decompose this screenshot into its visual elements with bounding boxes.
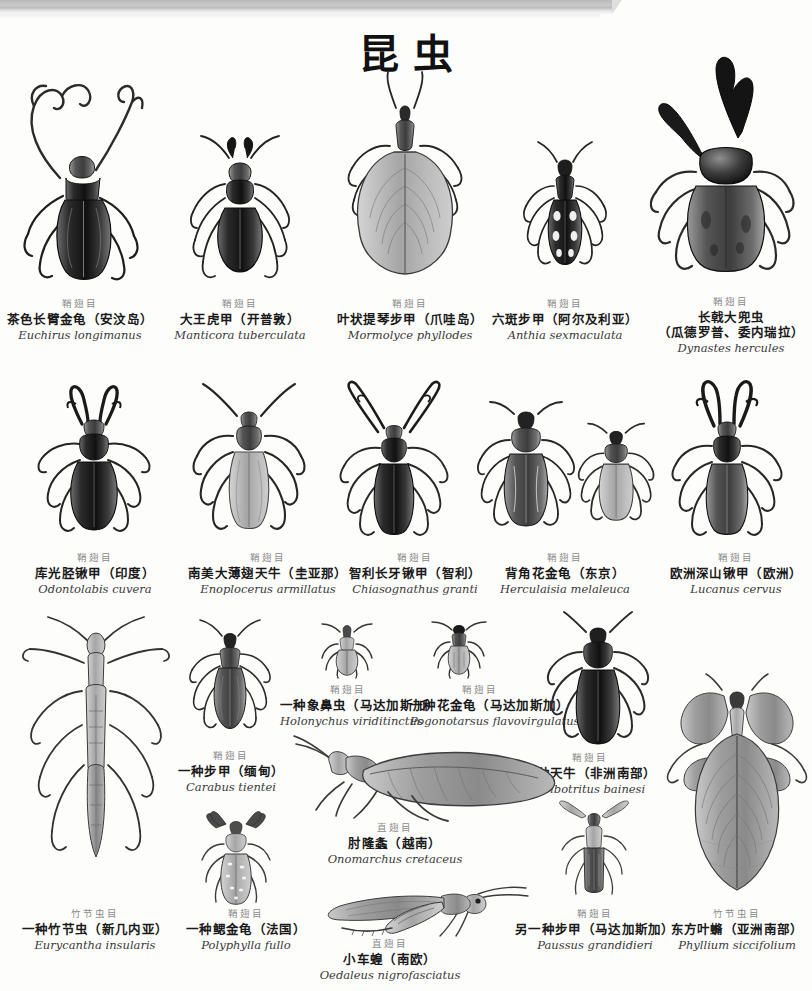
latin-name: Phyllium siccifolium bbox=[662, 938, 812, 952]
latin-name: Eurycantha insularis bbox=[0, 938, 190, 952]
scan-edge-shadow bbox=[0, 14, 600, 19]
specimen-dynastes-hercules bbox=[630, 52, 805, 282]
latin-name: Herculaisia melaleuca bbox=[470, 582, 660, 596]
caption-onomarchus-cretaceus: 直翅目 肘隆螽（越南） Onomarchus cretaceus bbox=[280, 822, 510, 866]
common-name: 大王虎甲（开普敦） bbox=[160, 312, 320, 327]
caption-paussus-grandidieri: 鞘翅目 另一种步甲（马达加斯加） Paussus grandidieri bbox=[510, 908, 680, 952]
common-name: 一种鳃金龟（法国） bbox=[176, 922, 316, 937]
common-name-region: （瓜德罗普、委内瑞拉） bbox=[650, 325, 812, 340]
caption-pogonotarsus-flavovirgulatus: 鞘翅目 一种花金龟（马达加斯加） Pogonotarsus flavovirgu… bbox=[410, 684, 550, 728]
common-name: 一种象鼻虫（马达加斯加） bbox=[280, 698, 415, 713]
specimen-pogonotarsus-flavovirgulatus bbox=[428, 618, 490, 680]
caption-anthia-sexmaculata: 鞘翅目 六斑步甲（阿尔及利亚） Anthia sexmaculata bbox=[485, 298, 645, 342]
common-name: 茶色长臂金龟（安汶岛） bbox=[0, 312, 160, 327]
specimen-manticora-tuberculata bbox=[185, 128, 295, 296]
order-label: 直翅目 bbox=[280, 822, 510, 834]
specimen-euchirus-longimanus bbox=[8, 58, 158, 293]
specimen-anthia-sexmaculata bbox=[510, 140, 620, 290]
order-label: 鞘翅目 bbox=[660, 552, 812, 564]
caption-euchirus-longimanus: 鞘翅目 茶色长臂金龟（安汶岛） Euchirus longimanus bbox=[0, 298, 160, 342]
order-label: 鞘翅目 bbox=[0, 298, 160, 310]
common-name: 东方叶䗛（亚洲南部） bbox=[662, 922, 812, 937]
order-label: 鞘翅目 bbox=[320, 298, 500, 310]
common-name: 小车蝗（南欧） bbox=[290, 952, 490, 967]
specimen-holonychus-viriditinctus bbox=[316, 618, 378, 680]
common-name: 另一种步甲（马达加斯加） bbox=[510, 922, 680, 937]
latin-name: Odontolabis cuvera bbox=[0, 582, 190, 596]
latin-name: Carabus tientei bbox=[172, 780, 290, 794]
specimen-onomarchus-cretaceus bbox=[292, 730, 570, 822]
order-label: 鞘翅目 bbox=[650, 296, 812, 308]
order-label: 直翅目 bbox=[290, 938, 490, 950]
caption-dynastes-hercules: 鞘翅目 长戟大兜虫 （瓜德罗普、委内瑞拉） Dynastes hercules bbox=[650, 296, 812, 355]
common-name: 背角花金龟（东京） bbox=[470, 566, 660, 581]
specimen-mormolyce-phyllodes bbox=[330, 68, 480, 290]
order-label: 鞘翅目 bbox=[160, 298, 320, 310]
order-label: 竹节虫目 bbox=[0, 908, 190, 920]
latin-name: Mormolyce phyllodes bbox=[320, 328, 500, 342]
latin-name: Manticora tuberculata bbox=[160, 328, 320, 342]
order-label: 鞘翅目 bbox=[510, 908, 680, 920]
common-name: 肘隆螽（越南） bbox=[280, 836, 510, 851]
specimen-odontolabis-cuvera bbox=[30, 382, 158, 547]
latin-name: Paussus grandidieri bbox=[510, 938, 680, 952]
specimen-oedaleus-nigrofasciatus bbox=[318, 878, 538, 940]
caption-manticora-tuberculata: 鞘翅目 大王虎甲（开普敦） Manticora tuberculata bbox=[160, 298, 320, 342]
common-name: 一种竹节虫（新几内亚） bbox=[0, 922, 190, 937]
common-name: 六斑步甲（阿尔及利亚） bbox=[485, 312, 645, 327]
common-name: 欧洲深山锹甲（欧洲） bbox=[660, 566, 812, 581]
order-label: 鞘翅目 bbox=[470, 552, 660, 564]
caption-carabus-tientei: 鞘翅目 一种步甲（缅甸） Carabus tientei bbox=[172, 750, 290, 794]
order-label: 鞘翅目 bbox=[410, 684, 550, 696]
latin-name: Pogonotarsus flavovirgulatus bbox=[410, 714, 550, 728]
common-name: 叶状提琴步甲（爪哇岛） bbox=[320, 312, 500, 327]
common-name: 长戟大兜虫 bbox=[650, 310, 812, 325]
caption-phyllium-siccifolium: 竹节虫目 东方叶䗛（亚洲南部） Phyllium siccifolium bbox=[662, 908, 812, 952]
specimen-polyphylla-fullo bbox=[196, 810, 276, 908]
specimen-eurycantha-insularis bbox=[18, 615, 188, 900]
specimen-lucanus-cervus bbox=[662, 378, 792, 548]
caption-lucanus-cervus: 鞘翅目 欧洲深山锹甲（欧洲） Lucanus cervus bbox=[660, 552, 812, 596]
caption-mormolyce-phyllodes: 鞘翅目 叶状提琴步甲（爪哇岛） Mormolyce phyllodes bbox=[320, 298, 500, 342]
caption-oedaleus-nigrofasciatus: 直翅目 小车蝗（南欧） Oedaleus nigrofasciatus bbox=[290, 938, 490, 982]
order-label: 鞘翅目 bbox=[172, 750, 290, 762]
specimen-carabus-tientei bbox=[182, 620, 278, 750]
specimen-phyllium-siccifolium bbox=[662, 672, 812, 900]
caption-holonychus-viriditinctus: 鞘翅目 一种象鼻虫（马达加斯加） Holonychus viriditinctu… bbox=[280, 684, 415, 728]
latin-name: Lucanus cervus bbox=[660, 582, 812, 596]
caption-herculaisia-melaleuca: 鞘翅目 背角花金龟（东京） Herculaisia melaleuca bbox=[470, 552, 660, 596]
order-label: 竹节虫目 bbox=[662, 908, 812, 920]
common-name: 一种步甲（缅甸） bbox=[172, 764, 290, 779]
specimen-herculaisia-melaleuca bbox=[472, 400, 662, 550]
latin-name: Dynastes hercules bbox=[650, 341, 812, 355]
common-name: 一种花金龟（马达加斯加） bbox=[410, 698, 550, 713]
scan-edge-bar bbox=[0, 0, 612, 14]
order-label: 鞘翅目 bbox=[280, 684, 415, 696]
order-label: 鞘翅目 bbox=[176, 908, 316, 920]
specimen-enoplocerus-armillatus bbox=[185, 382, 313, 547]
specimen-paussus-grandidieri bbox=[552, 800, 636, 900]
latin-name: Oedaleus nigrofasciatus bbox=[290, 968, 490, 982]
specimen-chiasognathus-granti bbox=[330, 378, 458, 548]
latin-name: Euchirus longimanus bbox=[0, 328, 160, 342]
order-label: 鞘翅目 bbox=[0, 552, 190, 564]
order-label: 鞘翅目 bbox=[485, 298, 645, 310]
caption-eurycantha-insularis: 竹节虫目 一种竹节虫（新几内亚） Eurycantha insularis bbox=[0, 908, 190, 952]
latin-name: Onomarchus cretaceus bbox=[280, 852, 510, 866]
common-name: 库光胫锹甲（印度） bbox=[0, 566, 190, 581]
latin-name: Anthia sexmaculata bbox=[485, 328, 645, 342]
latin-name: Holonychus viriditinctus bbox=[280, 714, 415, 728]
caption-odontolabis-cuvera: 鞘翅目 库光胫锹甲（印度） Odontolabis cuvera bbox=[0, 552, 190, 596]
